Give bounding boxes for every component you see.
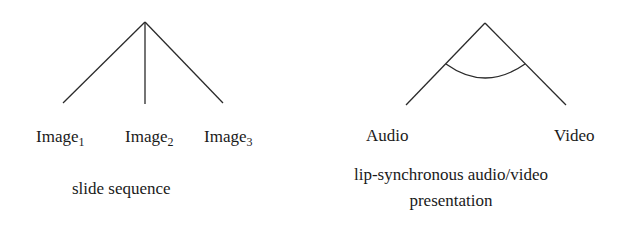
edge-audio [406,23,485,105]
leaf-subscript: 3 [246,135,252,149]
leaf-audio: Audio [366,127,409,144]
leaf-label: Image [204,127,246,146]
leaf-video: Video [554,127,595,144]
edge-image1 [63,22,145,103]
slide-sequence-tree [63,22,223,104]
leaf-label: Image [36,127,78,146]
leaf-image2: Image2 [125,128,173,145]
leaf-image3: Image3 [204,128,252,145]
leaf-label: Image [125,127,167,146]
caption-lip-sync-line1: lip-synchronous audio/video [333,166,569,183]
lip-sync-tree [406,23,566,105]
edge-video [485,23,566,105]
edge-image3 [145,22,223,103]
leaf-image1: Image1 [36,128,84,145]
caption-lip-sync-line2: presentation [333,192,569,209]
sync-arc [446,64,525,78]
leaf-subscript: 2 [167,135,173,149]
caption-slide-sequence: slide sequence [72,180,171,197]
leaf-subscript: 1 [78,135,84,149]
